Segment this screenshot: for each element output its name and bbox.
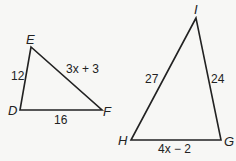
- vertex-label-g: G: [224, 134, 234, 149]
- side-label-gi: 24: [211, 72, 225, 86]
- triangle-def: [20, 47, 102, 110]
- vertex-label-e: E: [26, 32, 35, 47]
- side-label-ef: 3x + 3: [66, 62, 99, 76]
- vertex-label-d: D: [8, 103, 17, 118]
- diagram-canvas: E D F 12 3x + 3 16 I H G 27 24 4x − 2: [0, 0, 236, 161]
- side-label-df: 16: [54, 113, 68, 127]
- similar-triangles-figure: E D F 12 3x + 3 16 I H G 27 24 4x − 2: [0, 0, 236, 161]
- vertex-label-i: I: [194, 2, 198, 17]
- side-label-hg: 4x − 2: [158, 142, 191, 156]
- side-label-de: 12: [11, 69, 25, 83]
- vertex-label-h: H: [118, 133, 128, 148]
- vertex-label-f: F: [103, 104, 112, 119]
- side-label-hi: 27: [145, 72, 159, 86]
